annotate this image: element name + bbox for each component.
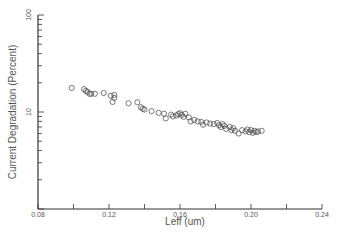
data-point <box>163 116 168 121</box>
x-tick-label: 0.20 <box>244 211 258 218</box>
data-points <box>69 85 264 136</box>
data-point <box>69 85 74 90</box>
data-point <box>135 100 140 105</box>
data-point <box>126 101 131 106</box>
x-tick-label: 0.08 <box>31 211 45 218</box>
x-tick-label: 0.24 <box>315 211 329 218</box>
data-point <box>211 122 216 127</box>
scatter-chart: 0.080.120.160.200.2410100 Leff (um) Curr… <box>0 0 340 244</box>
data-point <box>92 91 97 96</box>
y-axis-label: Current Degradation (Percent) <box>7 45 18 180</box>
data-point <box>149 109 154 114</box>
x-tick-label: 0.12 <box>102 211 116 218</box>
data-point <box>240 128 245 133</box>
data-point <box>259 128 264 133</box>
axes: 0.080.120.160.200.2410100 <box>25 9 329 218</box>
x-axis-label: Leff (um) <box>165 216 205 227</box>
data-point <box>156 110 161 115</box>
data-point <box>101 90 106 95</box>
y-tick-label: 10 <box>25 108 32 116</box>
data-point <box>256 129 261 134</box>
y-tick-label: 100 <box>25 9 32 21</box>
